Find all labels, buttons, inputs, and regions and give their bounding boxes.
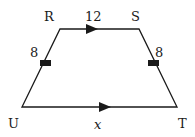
side-label-ut: x bbox=[94, 117, 102, 132]
trapezoid-shape bbox=[22, 29, 177, 107]
parallel-arrow-top-icon bbox=[86, 24, 98, 34]
vertex-label-s: S bbox=[131, 9, 140, 24]
vertex-label-r: R bbox=[44, 9, 55, 24]
side-label-ru: 8 bbox=[30, 45, 38, 60]
parallel-arrow-bottom-icon bbox=[99, 102, 111, 112]
tick-mark-left-icon bbox=[40, 60, 51, 66]
side-label-st: 8 bbox=[155, 45, 163, 60]
vertex-label-u: U bbox=[8, 116, 19, 131]
tick-mark-right-icon bbox=[148, 60, 159, 66]
trapezoid-diagram: R 12 S 8 8 U x T bbox=[0, 0, 195, 137]
side-label-rs: 12 bbox=[85, 9, 102, 24]
vertex-label-t: T bbox=[178, 116, 187, 131]
